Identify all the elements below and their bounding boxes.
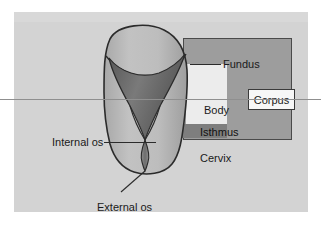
- label-internal-os: Internal os: [52, 137, 103, 148]
- uterus-illustration: [14, 12, 308, 212]
- fundus-leader-line: [190, 64, 221, 65]
- uterus-anatomy-figure: Fundus Body Isthmus Cervix Internal os E…: [0, 0, 321, 226]
- label-fundus: Fundus: [223, 59, 260, 70]
- horizontal-reference-line: [0, 99, 321, 100]
- internal-os-leader-line: [104, 142, 156, 143]
- label-isthmus: Isthmus: [200, 127, 239, 138]
- label-external-os: External os: [97, 202, 152, 213]
- label-cervix: Cervix: [200, 153, 231, 164]
- label-body: Body: [204, 105, 229, 116]
- external-os-leader: [121, 171, 145, 192]
- diagram-panel: Fundus Body Isthmus Cervix Internal os E…: [14, 12, 308, 212]
